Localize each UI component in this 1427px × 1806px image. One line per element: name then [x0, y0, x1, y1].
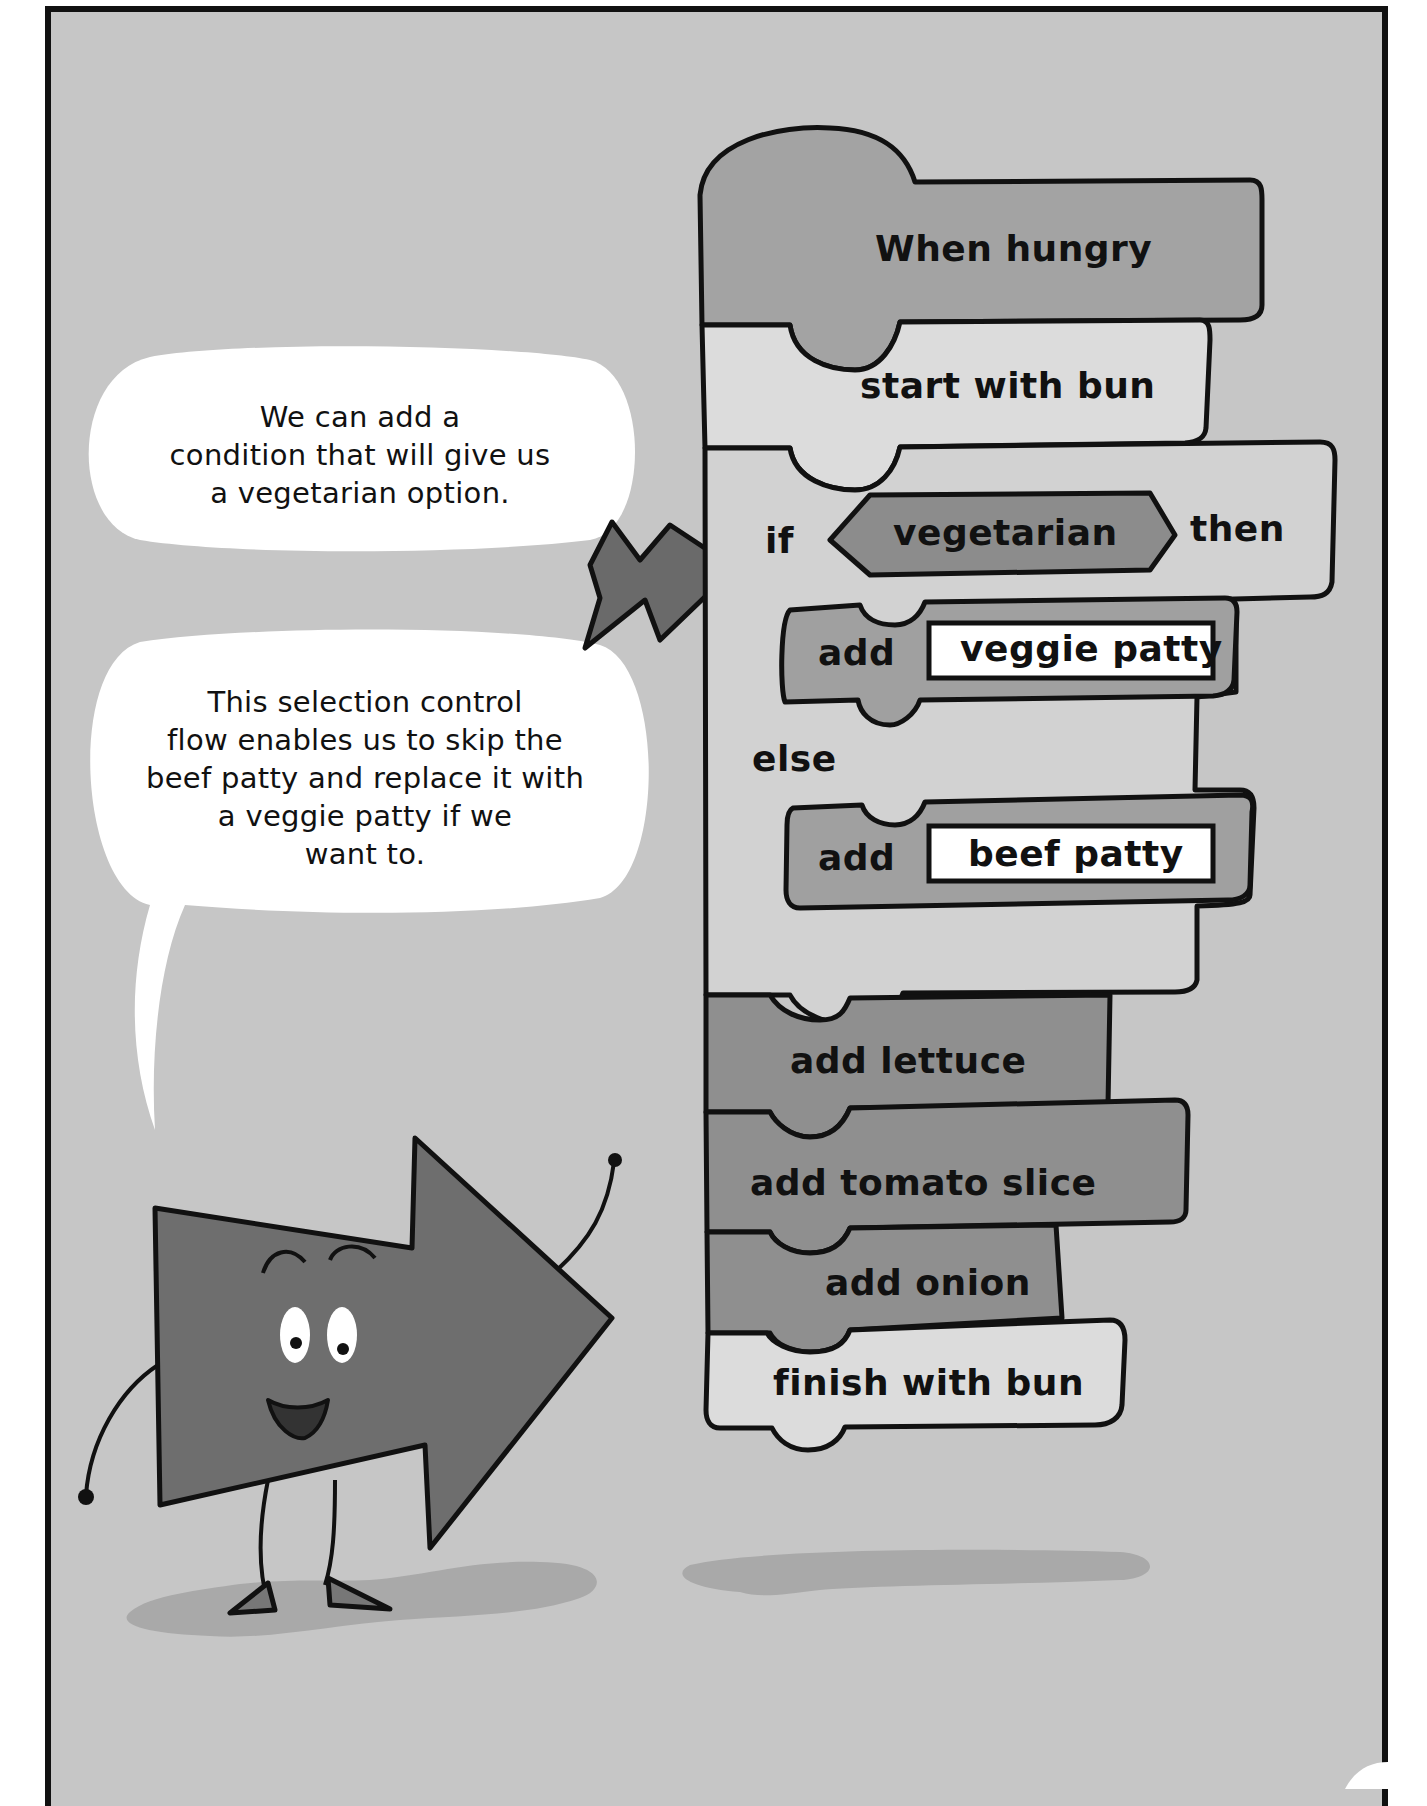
then-branch-verb: add [818, 632, 895, 673]
hat-block-label: When hungry [875, 228, 1152, 269]
start-block-label: start with bun [860, 365, 1155, 406]
condition-label: vegetarian [893, 512, 1118, 553]
then-branch-value: veggie patty [960, 628, 1223, 669]
else-branch-value: beef patty [968, 833, 1184, 874]
speech-bubble-1-text: We can add a condition that will give us… [100, 398, 620, 512]
page-number-badge [1345, 1762, 1388, 1789]
bubble-1-line: a vegetarian option. [100, 474, 620, 512]
bubble-2-line: beef patty and replace it with [95, 759, 635, 797]
if-keyword: if [765, 520, 794, 561]
then-keyword: then [1190, 508, 1285, 549]
character-pupil-right [337, 1343, 349, 1355]
blocks-shadow [682, 1550, 1150, 1596]
else-branch-verb: add [818, 837, 895, 878]
step-onion-label: add onion [825, 1262, 1031, 1303]
character-eye-left [280, 1307, 310, 1363]
character-waving-arm [555, 1162, 614, 1272]
bubble-2-line: flow enables us to skip the [95, 721, 635, 759]
character-hand-right [608, 1153, 622, 1167]
character-hand-left [78, 1489, 94, 1505]
step-lettuce-label: add lettuce [790, 1040, 1026, 1081]
bubble-1-line: We can add a [100, 398, 620, 436]
speech-bubble-2-text: This selection control flow enables us t… [95, 683, 635, 873]
bubble-2-line: This selection control [95, 683, 635, 721]
step-finish-label: finish with bun [773, 1362, 1084, 1403]
bubble-1-line: condition that will give us [100, 436, 620, 474]
character-arrow-body [155, 1138, 612, 1548]
bubble-2-line: want to. [95, 835, 635, 873]
else-keyword: else [752, 738, 837, 779]
character-pupil-left [290, 1337, 302, 1349]
bubble-2-line: a veggie patty if we [95, 797, 635, 835]
step-tomato-label: add tomato slice [750, 1162, 1096, 1203]
character-left-arm [86, 1365, 158, 1495]
